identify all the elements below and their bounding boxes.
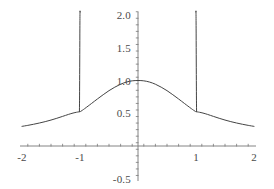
y-tick-label: 0.5 — [117, 108, 131, 119]
y-tick-label: 2.0 — [117, 10, 131, 21]
plot-canvas — [0, 0, 274, 189]
curve-segment-right-tail — [197, 112, 254, 127]
y-tick-label: 1.5 — [117, 42, 131, 53]
curve-segment-left-tail — [22, 112, 79, 127]
y-tick-label: -0.5 — [113, 173, 131, 184]
x-tick-label: -2 — [17, 152, 27, 163]
x-tick-label: 2 — [251, 152, 257, 163]
curve-segment-left-asymptote — [79, 11, 80, 112]
y-tick-label: 1.0 — [117, 75, 131, 86]
x-tick-label: 1 — [193, 152, 199, 163]
plot-figure: -2-112 -0.50.51.01.52.0 — [0, 0, 274, 189]
curve-segment-right-asymptote — [196, 11, 197, 112]
x-tick-label: -1 — [75, 152, 85, 163]
